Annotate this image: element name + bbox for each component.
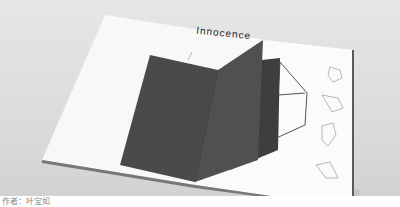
photo-caption: 作者：叶宝如 — [2, 196, 50, 207]
photo: Innocence — [0, 0, 400, 196]
booklet-illustration: Innocence — [0, 0, 400, 196]
